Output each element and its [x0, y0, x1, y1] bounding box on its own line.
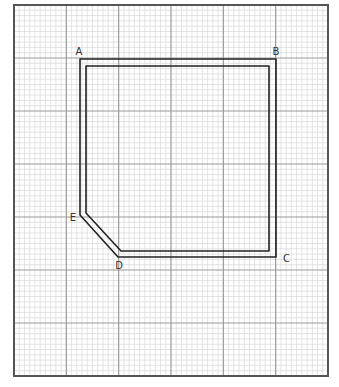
- point-label-b: B: [273, 46, 280, 57]
- point-label-c: C: [283, 253, 290, 264]
- point-label-e: E: [70, 212, 76, 223]
- point-label-d: D: [115, 260, 123, 271]
- grid-diagram: A B C D E: [0, 0, 339, 387]
- point-label-a: A: [76, 46, 83, 57]
